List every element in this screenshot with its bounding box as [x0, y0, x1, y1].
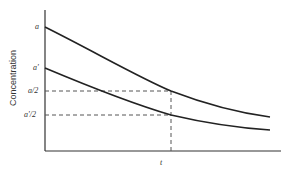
tick-label-a-prime: a' [33, 63, 39, 72]
tick-label-a-prime-half: a'/2 [24, 110, 36, 119]
tick-label-t: t [160, 158, 162, 167]
tick-label-a: a [35, 22, 39, 31]
tick-label-a-half: a/2 [28, 86, 38, 95]
chart-canvas [0, 0, 291, 171]
curve-a [45, 27, 270, 117]
half-life-chart: Concentration a a' a/2 a'/2 t [0, 0, 291, 171]
curve-a-prime [45, 68, 270, 130]
y-axis-label: Concentration [8, 50, 18, 106]
